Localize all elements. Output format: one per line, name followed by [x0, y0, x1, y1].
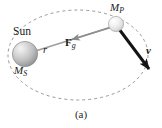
sun-mass-label: MS — [14, 65, 27, 78]
sun-mass-symbol: M — [14, 64, 23, 76]
sun-mass-subscript: S — [23, 69, 27, 78]
orbit-figure: Sun MS MP r Fg v (a) — [0, 0, 162, 128]
force-symbol: F — [65, 36, 72, 48]
velocity-vector-arrow — [119, 29, 149, 69]
velocity-label: v — [146, 45, 151, 56]
planet-mass-symbol: M — [110, 1, 119, 13]
figure-caption: (a) — [0, 109, 162, 120]
sun-label: Sun — [13, 26, 31, 38]
force-vector-arrow — [72, 27, 112, 40]
planet-mass-subscript: P — [119, 6, 124, 15]
planet-mass-label: MP — [110, 2, 124, 15]
force-subscript: g — [72, 41, 76, 50]
sun-sphere — [12, 41, 37, 66]
force-label: Fg — [65, 37, 76, 50]
planet-sphere — [108, 16, 123, 31]
radius-label: r — [43, 45, 47, 56]
